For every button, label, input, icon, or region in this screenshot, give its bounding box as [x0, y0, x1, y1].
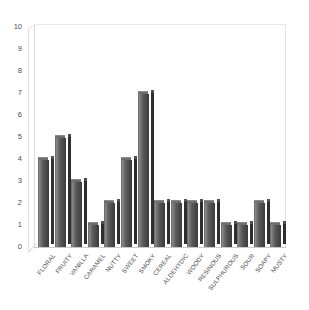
- bar-top-cap: [138, 91, 148, 94]
- bar-top-side-cap: [167, 199, 170, 202]
- bar-woody[interactable]: [187, 199, 200, 247]
- bar-front-face: [121, 160, 132, 247]
- bar-sweet[interactable]: [121, 156, 134, 247]
- bar-top-cap: [121, 157, 131, 160]
- bar-side-face: [51, 157, 54, 244]
- y-axis: 10 9 8 7 6 5 4 3 2 1 0: [0, 0, 28, 310]
- bar-front-face: [154, 203, 165, 247]
- bar-side-face: [68, 135, 71, 244]
- bar-top-side-cap: [184, 199, 187, 202]
- bar-smoky[interactable]: [138, 90, 151, 247]
- bar-top-cap: [71, 179, 81, 182]
- x-axis-tick-label: FLORAL: [36, 252, 57, 276]
- bar-top-side-cap: [267, 199, 270, 202]
- bar-top-side-cap: [200, 199, 203, 202]
- bar-sulphurous[interactable]: [221, 221, 234, 247]
- y-axis-tick: 6: [18, 111, 22, 119]
- bar-top-cap: [55, 135, 65, 138]
- bar-top-side-cap: [134, 156, 137, 159]
- bar-front-face: [55, 138, 66, 247]
- bar-caramel[interactable]: [88, 221, 101, 247]
- bar-front-face: [38, 160, 49, 247]
- bar-top-cap: [154, 200, 164, 203]
- bar-sour[interactable]: [237, 221, 250, 247]
- bar-top-side-cap: [84, 178, 87, 181]
- bar-chart: 10 9 8 7 6 5 4 3 2 1 0 FLORALFRUITYVANIL…: [0, 0, 309, 310]
- x-axis-tick-label: SWEET: [120, 252, 140, 274]
- bar-front-face: [171, 203, 182, 247]
- bar-side-face: [217, 200, 220, 244]
- bar-front-face: [104, 203, 115, 247]
- bar-vanilla[interactable]: [71, 178, 84, 247]
- bar-front-face: [71, 182, 82, 247]
- bar-nutty[interactable]: [104, 199, 117, 247]
- bar-front-face: [270, 225, 281, 247]
- bar-front-face: [237, 225, 248, 247]
- y-axis-tick: 8: [18, 67, 22, 75]
- bar-top-cap: [237, 222, 247, 225]
- y-axis-tick: 2: [18, 199, 22, 207]
- bar-top-cap: [204, 200, 214, 203]
- bar-side-face: [267, 200, 270, 244]
- bar-side-face: [151, 91, 154, 244]
- bar-front-face: [138, 94, 149, 247]
- y-axis-tick: 3: [18, 177, 22, 185]
- y-axis-tick: 1: [18, 221, 22, 229]
- bar-aldehydic[interactable]: [171, 199, 184, 247]
- bar-floral[interactable]: [38, 156, 51, 247]
- bars-layer: [28, 24, 286, 252]
- bar-side-face: [167, 200, 170, 244]
- plot-area: [28, 24, 286, 252]
- y-axis-tick: 10: [14, 23, 22, 31]
- bar-top-cap: [104, 200, 114, 203]
- bar-side-face: [84, 179, 87, 244]
- bar-front-face: [221, 225, 232, 247]
- bar-top-side-cap: [283, 221, 286, 224]
- bar-side-face: [184, 200, 187, 244]
- bar-top-side-cap: [68, 134, 71, 137]
- bar-top-cap: [187, 200, 197, 203]
- bar-top-cap: [270, 222, 280, 225]
- bar-top-side-cap: [234, 221, 237, 224]
- bar-top-cap: [88, 222, 98, 225]
- y-axis-tick: 5: [18, 133, 22, 141]
- bar-top-cap: [38, 157, 48, 160]
- y-axis-tick: 0: [18, 243, 22, 251]
- bar-top-side-cap: [117, 199, 120, 202]
- bar-side-face: [134, 157, 137, 244]
- bar-top-side-cap: [101, 221, 104, 224]
- bar-top-side-cap: [250, 221, 253, 224]
- bar-side-face: [117, 200, 120, 244]
- bar-side-face: [250, 222, 253, 244]
- bar-fruity[interactable]: [55, 134, 68, 247]
- bar-front-face: [254, 203, 265, 247]
- bar-musty[interactable]: [270, 221, 283, 247]
- bar-top-cap: [254, 200, 264, 203]
- bar-top-side-cap: [217, 199, 220, 202]
- bar-front-face: [204, 203, 215, 247]
- bar-cereal[interactable]: [154, 199, 167, 247]
- y-axis-tick: 9: [18, 45, 22, 53]
- x-axis-labels: FLORALFRUITYVANILLACARAMELNUTTYSWEETSMOK…: [28, 252, 286, 310]
- bar-side-face: [234, 222, 237, 244]
- bar-side-face: [101, 222, 104, 244]
- bar-top-cap: [171, 200, 181, 203]
- bar-resinous[interactable]: [204, 199, 217, 247]
- bar-top-side-cap: [51, 156, 54, 159]
- bar-front-face: [88, 225, 99, 247]
- bar-front-face: [187, 203, 198, 247]
- bar-top-cap: [221, 222, 231, 225]
- bar-side-face: [283, 222, 286, 244]
- bar-top-side-cap: [151, 90, 154, 93]
- y-axis-tick: 4: [18, 155, 22, 163]
- x-axis-tick-label: MUSTY: [270, 252, 289, 274]
- bar-soapy[interactable]: [254, 199, 267, 247]
- bar-side-face: [200, 200, 203, 244]
- y-axis-tick: 7: [18, 89, 22, 97]
